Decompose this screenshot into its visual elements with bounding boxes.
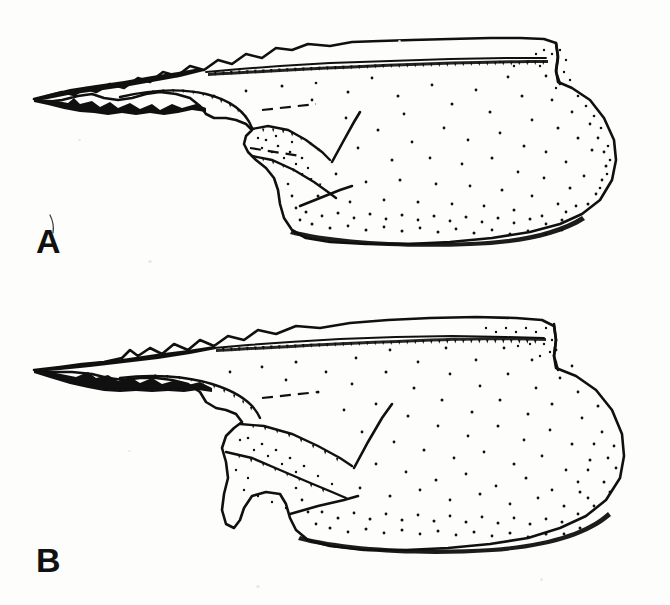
- figure-page: A B: [0, 0, 670, 605]
- panel-label-a: A: [36, 224, 61, 258]
- panel-label-b: B: [36, 543, 61, 577]
- figure-canvas: [0, 0, 670, 605]
